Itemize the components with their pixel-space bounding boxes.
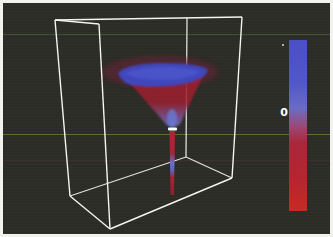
vortex-stem — [170, 131, 176, 195]
bounding-box-back — [70, 18, 232, 196]
colorbar-max-marker — [282, 44, 284, 46]
visualization-viewport: 0 — [0, 0, 333, 237]
colorbar — [289, 40, 307, 211]
funnel-neck — [167, 109, 177, 127]
bounding-box-front — [55, 17, 242, 229]
colorbar-zero-label: 0 — [279, 106, 289, 120]
neck-marker — [168, 128, 177, 131]
